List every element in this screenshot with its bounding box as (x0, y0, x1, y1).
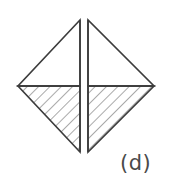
figure-label: (d) (120, 150, 170, 176)
figure-container: (d) (0, 0, 174, 187)
